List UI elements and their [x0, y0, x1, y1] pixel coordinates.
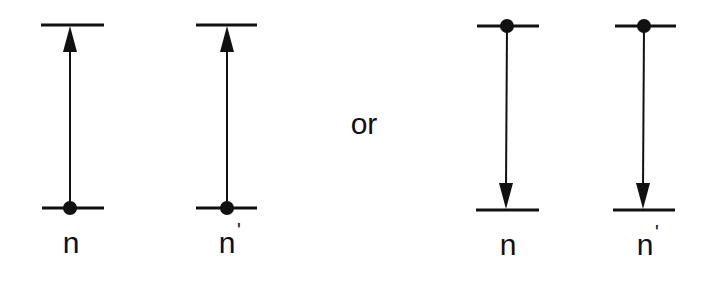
arrowhead-down-icon [636, 183, 650, 209]
diagram-down-n [476, 19, 539, 210]
arrowhead-up-icon [220, 26, 234, 52]
label-n: n [63, 228, 80, 258]
diagram-down-n-prime [613, 19, 676, 210]
electron-dot-icon [63, 201, 77, 215]
or-connector: or [351, 109, 378, 139]
diagram-up-n-prime [196, 25, 257, 215]
electron-dot-icon [500, 19, 514, 33]
arrowhead-up-icon [63, 26, 77, 52]
arrowhead-down-icon [499, 183, 513, 209]
electron-dot-icon [220, 201, 234, 215]
electron-dot-icon [637, 19, 651, 33]
label-n: n [500, 230, 517, 260]
label-n: n [219, 228, 236, 258]
transition-arrow [506, 26, 507, 188]
transition-diagram [0, 0, 710, 282]
diagram-up-n [41, 25, 104, 215]
label-n: n [637, 230, 654, 260]
transition-arrow [643, 26, 644, 188]
prime-mark: ' [237, 220, 241, 240]
prime-mark: ' [655, 222, 659, 242]
